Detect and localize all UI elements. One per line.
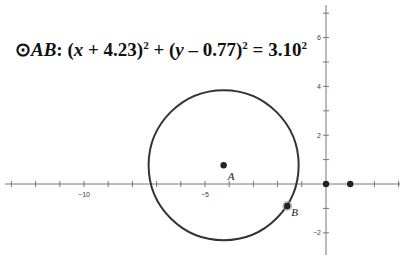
y-tick-label: 4: [317, 83, 321, 90]
x-axis-labels: −10−5: [78, 191, 209, 198]
coordinate-plane: −10−5 642−2 AB: [0, 0, 403, 260]
y-tick-label: −2: [313, 229, 321, 236]
x-tick-label: −10: [78, 191, 90, 198]
y-tick-label: 2: [317, 132, 321, 139]
y-axis-labels: 642−2: [313, 34, 321, 236]
points: AB: [220, 162, 353, 218]
point-label: A: [227, 170, 235, 182]
point-label: B: [291, 206, 298, 218]
y-tick-label: 6: [317, 34, 321, 41]
point-b[interactable]: [284, 203, 290, 209]
point-a[interactable]: [220, 162, 226, 168]
point[interactable]: [347, 181, 353, 187]
x-tick-label: −5: [201, 191, 209, 198]
point[interactable]: [323, 181, 329, 187]
